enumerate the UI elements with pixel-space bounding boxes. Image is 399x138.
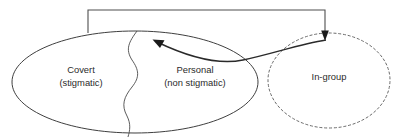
covert-label-line2: (stigmatic) [59,77,102,88]
bracket-connector-line [88,10,325,33]
curved-connector-line [157,40,326,62]
covert-personal-divider [124,31,138,137]
personal-label-line1: Personal [176,64,213,75]
curved-arrowhead-icon [153,40,165,49]
diagram-root: Covert (stigmatic) Personal (non stigmat… [0,0,399,138]
covert-label-line1: Covert [67,64,95,75]
personal-label-line2: (non stigmatic) [164,77,225,88]
ingroup-label: In-group [312,71,347,82]
bracket-arrowhead-icon [321,31,329,42]
diagram-canvas: Covert (stigmatic) Personal (non stigmat… [0,0,399,138]
